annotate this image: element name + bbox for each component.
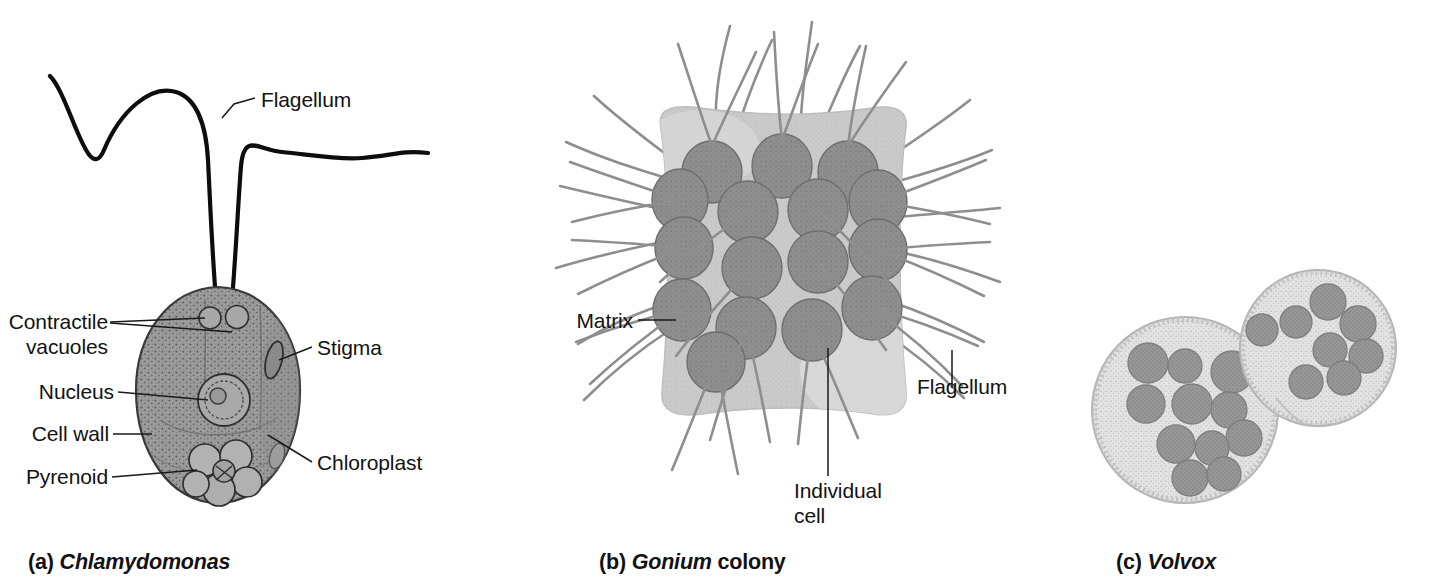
leader-flagellum-a (222, 98, 255, 118)
pyrenoid (183, 440, 262, 506)
daughter-colony (1310, 284, 1346, 320)
daughter-colony (1226, 420, 1262, 456)
flagellum-left-path (50, 76, 216, 300)
caption-panel-c: (c) Volvox (1093, 525, 1216, 578)
daughter-colony (1340, 306, 1376, 342)
daughter-colony (1327, 361, 1361, 395)
daughter-colony (1127, 385, 1165, 423)
caption-b-suffix: colony (712, 550, 786, 574)
daughter-colony (1128, 343, 1168, 383)
label-individual-line2: cell (794, 504, 825, 527)
label-flagellum-b: Flagellum (917, 374, 1007, 399)
label-stigma: Stigma (317, 335, 382, 360)
label-nucleus: Nucleus (0, 379, 114, 404)
daughter-colony (1289, 365, 1323, 399)
caption-c-prefix: (c) (1116, 550, 1142, 574)
daughter-colony (1172, 460, 1208, 496)
daughter-colony (1280, 306, 1312, 338)
caption-b-name: Gonium (632, 550, 712, 574)
daughter-colony (1168, 349, 1202, 383)
label-chloroplast: Chloroplast (317, 450, 422, 475)
caption-a-prefix: (a) (28, 550, 54, 574)
nucleolus (210, 388, 226, 404)
caption-c-name: Volvox (1148, 550, 1217, 574)
label-cell-wall: Cell wall (0, 421, 109, 446)
caption-b-prefix: (b) (599, 550, 626, 574)
label-contractile-vacuoles: Contractilevacuoles (0, 309, 108, 359)
caption-panel-b: (b) Gonium colony (576, 525, 786, 578)
caption-a-name: Chlamydomonas (60, 550, 231, 574)
daughter-colony (1246, 314, 1278, 346)
daughter-colony (1172, 384, 1212, 424)
caption-panel-a: (a) Chlamydomonas (5, 525, 230, 578)
label-individual-cell: Individualcell (794, 478, 882, 528)
daughter-colony (1157, 425, 1195, 463)
panel-c-illustration (1092, 270, 1396, 503)
label-flagellum-a: Flagellum (261, 87, 351, 112)
label-matrix: Matrix (520, 308, 633, 333)
label-contractile-line1: Contractile (9, 310, 108, 333)
panel-b-illustration (556, 22, 1000, 476)
contractile-vacuole-right (226, 306, 249, 329)
label-individual-line1: Individual (794, 479, 882, 502)
flagellum-right-path (232, 145, 428, 300)
label-pyrenoid: Pyrenoid (0, 464, 108, 489)
daughter-colony (1207, 457, 1241, 491)
label-contractile-line2: vacuoles (26, 335, 108, 358)
